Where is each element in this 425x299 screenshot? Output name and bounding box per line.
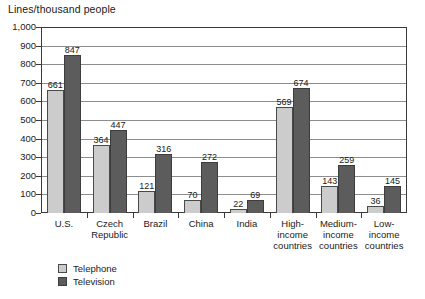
x-axis-label-line: countries <box>271 240 315 251</box>
bar-group: 569674 <box>270 27 316 213</box>
x-axis-label-line: Low- <box>362 218 406 229</box>
x-axis-label-line: income <box>317 229 361 240</box>
x-axis-label-line: India <box>225 218 269 229</box>
x-axis-labels: U.S.CzechRepublicBrazilChinaIndiaHigh-in… <box>41 218 407 251</box>
bar-value-label: 674 <box>294 79 309 88</box>
legend-label: Telephone <box>73 262 117 275</box>
x-axis-label-line: Czech <box>88 218 132 229</box>
y-tick-label: 900 <box>0 41 36 51</box>
bar-chart: Lines/thousand people 1,0009008007006005… <box>0 0 425 299</box>
legend-swatch-television <box>58 277 67 286</box>
chart-legend: TelephoneTelevision <box>58 262 117 288</box>
y-tick-mark <box>36 213 41 214</box>
bar-telephone: 36 <box>367 206 384 213</box>
bar-group: 143259 <box>316 27 362 213</box>
y-axis-title: Lines/thousand people <box>8 3 116 15</box>
x-axis-label: Medium-incomecountries <box>316 218 362 251</box>
y-tick-label: 700 <box>0 78 36 88</box>
bar-telephone: 364 <box>93 145 110 213</box>
bar-value-label: 259 <box>339 156 354 165</box>
x-axis-label-line: China <box>179 218 223 229</box>
legend-item: Television <box>58 275 117 288</box>
x-axis-label: Brazil <box>133 218 179 251</box>
bar-group: 2269 <box>224 27 270 213</box>
bar-group: 364447 <box>87 27 133 213</box>
bar-group: 661847 <box>41 27 87 213</box>
bar-television: 69 <box>247 200 264 213</box>
x-axis-label-line: U.S. <box>42 218 86 229</box>
bar-value-label: 272 <box>202 153 217 162</box>
y-tick-label: 600 <box>0 96 36 106</box>
legend-item: Telephone <box>58 262 117 275</box>
x-axis-label-line: countries <box>362 240 406 251</box>
bar-television: 447 <box>110 130 127 213</box>
bar-telephone: 143 <box>321 186 338 213</box>
bar-television: 847 <box>64 55 81 213</box>
x-axis-label-line: income <box>271 229 315 240</box>
x-axis-label-line: Republic <box>88 229 132 240</box>
x-axis-label-line: countries <box>317 240 361 251</box>
bar-value-label: 145 <box>385 177 400 186</box>
bar-groups: 6618473644471213167027222695696741432593… <box>41 27 407 213</box>
x-axis-label: India <box>224 218 270 251</box>
bar-value-label: 847 <box>65 46 80 55</box>
x-axis-label-line: income <box>362 229 406 240</box>
legend-swatch-telephone <box>58 264 67 273</box>
y-tick-label: 200 <box>0 171 36 181</box>
legend-label: Television <box>73 275 115 288</box>
bar-value-label: 22 <box>233 200 243 209</box>
bar-group: 121316 <box>133 27 179 213</box>
x-axis-label: CzechRepublic <box>87 218 133 251</box>
y-tick-label: 100 <box>0 189 36 199</box>
y-tick-label: 1,000 <box>0 22 36 32</box>
bar-television: 259 <box>338 165 355 213</box>
bar-telephone: 121 <box>138 191 155 214</box>
bar-value-label: 69 <box>250 191 260 200</box>
y-tick-label: 400 <box>0 134 36 144</box>
bar-value-label: 121 <box>139 182 154 191</box>
bar-value-label: 143 <box>322 177 337 186</box>
bar-value-label: 661 <box>48 81 63 90</box>
x-axis-label: High-incomecountries <box>270 218 316 251</box>
y-tick-label: 800 <box>0 59 36 69</box>
bar-value-label: 569 <box>277 98 292 107</box>
x-axis-label-line: Medium- <box>317 218 361 229</box>
x-axis-label-line: Brazil <box>134 218 178 229</box>
bar-telephone: 22 <box>230 209 247 213</box>
bar-value-label: 70 <box>188 191 198 200</box>
bar-group: 70272 <box>178 27 224 213</box>
bar-value-label: 447 <box>111 121 126 130</box>
bar-television: 674 <box>293 88 310 213</box>
y-tick-label: 300 <box>0 152 36 162</box>
bar-value-label: 316 <box>156 145 171 154</box>
bar-telephone: 70 <box>184 200 201 213</box>
bar-value-label: 364 <box>94 136 109 145</box>
bar-television: 316 <box>155 154 172 213</box>
bar-group: 36145 <box>361 27 407 213</box>
x-axis-label: Low-incomecountries <box>361 218 407 251</box>
bar-television: 145 <box>384 186 401 213</box>
bar-value-label: 36 <box>371 197 381 206</box>
x-axis-label: U.S. <box>41 218 87 251</box>
bar-television: 272 <box>201 162 218 213</box>
bar-telephone: 569 <box>276 107 293 213</box>
x-axis-label-line: High- <box>271 218 315 229</box>
bar-telephone: 661 <box>47 90 64 213</box>
x-axis-label: China <box>178 218 224 251</box>
y-tick-label: 0 <box>0 208 36 218</box>
y-tick-label: 500 <box>0 115 36 125</box>
